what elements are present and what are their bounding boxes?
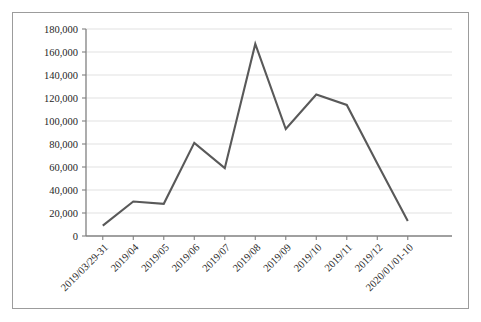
chart-figure: 180,000160,000140,000120,000100,00080,00… xyxy=(0,0,481,322)
y-axis-tick-label: 100,000 xyxy=(44,116,78,127)
y-axis-tick-label: 40,000 xyxy=(49,185,78,196)
x-axis-tick-label: 2019/10 xyxy=(292,242,324,274)
y-axis-tick-label: 0 xyxy=(73,231,78,242)
x-axis-labels-group: 2019/03/29-312019/042019/052019/062019/0… xyxy=(59,241,416,293)
x-axis-tick-label: 2019/08 xyxy=(231,242,263,274)
line-chart[interactable]: 180,000160,000140,000120,000100,00080,00… xyxy=(0,0,481,322)
x-axis-tick-label: 2019/09 xyxy=(261,242,293,274)
x-axis-tick-label: 2019/04 xyxy=(109,241,142,274)
x-axis-tick-label: 2019/03/29-31 xyxy=(59,242,111,294)
y-axis-tick-label: 120,000 xyxy=(44,93,78,104)
x-axis-tick-label: 2019/05 xyxy=(139,242,171,274)
y-axis-tick-label: 180,000 xyxy=(44,24,78,35)
data-series-line[interactable] xyxy=(103,44,408,226)
y-axis-tick-label: 60,000 xyxy=(49,162,78,173)
y-axis-tick-label: 160,000 xyxy=(44,47,78,58)
y-axis-labels-group: 180,000160,000140,000120,000100,00080,00… xyxy=(44,24,78,242)
y-axis-tick-label: 80,000 xyxy=(49,139,78,150)
x-axis-tick-label: 2019/07 xyxy=(200,242,232,274)
gridlines-group xyxy=(86,29,452,213)
y-axis-tick-label: 20,000 xyxy=(49,208,78,219)
x-axis-tick-label: 2019/11 xyxy=(322,242,354,274)
y-axis-tick-label: 140,000 xyxy=(44,70,78,81)
x-axis-tick-label: 2019/06 xyxy=(170,242,202,274)
